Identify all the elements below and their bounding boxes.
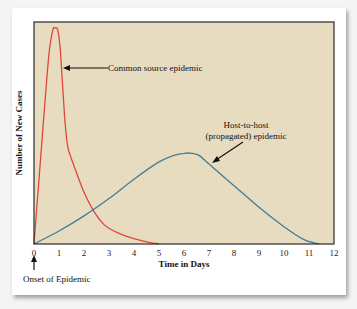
y-axis-title: Number of New Cases [14, 90, 24, 176]
x-tick-label: 4 [132, 248, 137, 258]
x-tick-label: 7 [207, 248, 212, 258]
x-axis-title: Time in Days [159, 259, 210, 269]
onset-label: Onset of Epidemic [23, 274, 90, 284]
common-source-label: Common source epidemic [108, 63, 202, 73]
x-tick-label: 1 [57, 248, 62, 258]
x-tick-label: 3 [107, 248, 112, 258]
x-tick-label: 12 [330, 248, 339, 258]
x-tick-label: 10 [280, 248, 290, 258]
epidemic-curve-chart: 0123456789101112 Number of New Cases Tim… [0, 0, 357, 309]
x-tick-label: 8 [232, 248, 237, 258]
x-tick-label: 6 [182, 248, 187, 258]
x-tick-label: 2 [82, 248, 87, 258]
propagated-label-line2: (propagated) epidemic [205, 131, 286, 141]
plot-area [34, 22, 334, 244]
x-tick-label: 11 [305, 248, 314, 258]
x-tick-label: 5 [157, 248, 162, 258]
x-tick-label: 9 [257, 248, 262, 258]
propagated-label-line1: Host-to-host [224, 120, 269, 130]
